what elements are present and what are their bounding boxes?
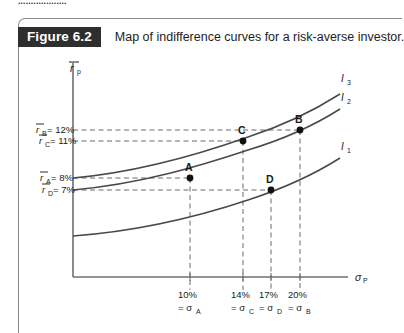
x-tick-label-sD: 17% = σ D xyxy=(259,289,282,315)
y-tick-rD-text: = 7% xyxy=(53,184,75,195)
y-tick-rA-symbol: r xyxy=(40,172,44,183)
data-point-C-label: C xyxy=(238,124,246,136)
y-tick-label-rD: r D = 7% xyxy=(42,184,75,197)
x-tick-label-sB: 20% = σ B xyxy=(288,289,311,315)
y-axis-label: r p xyxy=(69,62,81,76)
curve-label-I3-text: I xyxy=(341,73,344,84)
curve-label-I3: I 3 xyxy=(341,73,351,86)
x-tick-label-sA: 10% = σ A xyxy=(178,289,201,315)
x-tick-label-sC: 14% = σ C xyxy=(231,289,254,315)
x-axis-label: σ P xyxy=(355,271,368,284)
curve-label-I2-text: I xyxy=(341,92,344,103)
y-tick-rD-symbol: r xyxy=(42,184,46,195)
x-tick-sC-eq: = σ xyxy=(231,302,245,313)
x-axis-label-symbol: σ xyxy=(355,271,362,283)
y-tick-rA-text: = 8% xyxy=(51,172,73,183)
y-axis-label-symbol: r xyxy=(70,62,74,74)
x-tick-sA-pct: 10% xyxy=(178,289,198,300)
curve-label-I1-text: I xyxy=(341,141,344,152)
x-tick-sC-pct: 14% xyxy=(231,289,251,300)
y-tick-rB-symbol: r xyxy=(36,124,40,135)
x-tick-sD-pct: 17% xyxy=(259,289,279,300)
x-tick-sD-sub: D xyxy=(277,308,282,315)
data-point-D: D xyxy=(266,173,274,193)
y-tick-rC-text: = 11% xyxy=(50,135,77,146)
x-tick-sB-pct: 20% xyxy=(288,289,308,300)
data-point-B-label: B xyxy=(295,113,303,125)
curve-label-I1: I 1 xyxy=(341,141,351,154)
curve-label-I3-sub: 3 xyxy=(347,79,351,86)
y-axis-label-sub: p xyxy=(77,68,81,76)
curve-label-I1-sub: 1 xyxy=(347,147,351,154)
curve-label-I2-sub: 2 xyxy=(347,98,351,105)
x-tick-sD-eq: = σ xyxy=(259,302,273,313)
x-tick-sA-eq: = σ xyxy=(178,302,192,313)
x-tick-sB-sub: B xyxy=(306,308,311,315)
data-point-D-label: D xyxy=(266,173,274,185)
y-tick-rB-text: = 12% xyxy=(47,124,75,135)
x-tick-sC-sub: C xyxy=(249,308,254,315)
x-tick-sB-eq: = σ xyxy=(288,302,302,313)
x-axis-label-sub: P xyxy=(363,277,368,284)
x-tick-sA-sub: A xyxy=(196,308,201,315)
data-point-A-label: A xyxy=(185,161,193,173)
curve-label-I2: I 2 xyxy=(341,92,351,105)
